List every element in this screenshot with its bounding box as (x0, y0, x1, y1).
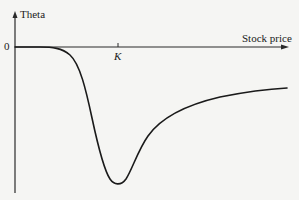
x-axis-label: Stock price (242, 33, 292, 44)
theta-curve (15, 47, 287, 184)
y-axis-label: Theta (20, 9, 45, 20)
y-axis-arrow-icon (13, 11, 18, 18)
origin-zero-label: 0 (4, 41, 10, 52)
plot-area (0, 0, 299, 200)
theta-vs-stock-price-chart: Theta Stock price 0 K (0, 0, 299, 200)
x-axis-arrow-icon (281, 45, 289, 50)
strike-k-label: K (114, 51, 121, 62)
